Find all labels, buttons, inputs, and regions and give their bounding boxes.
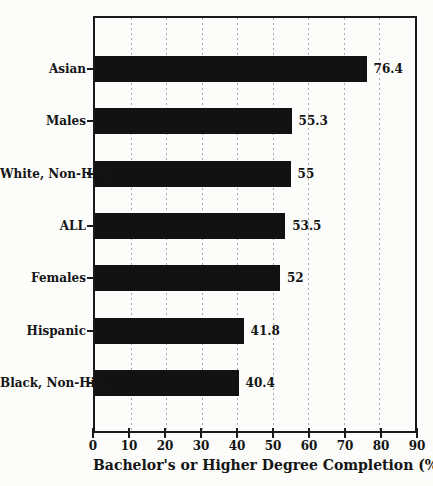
y-axis-tick-0 (87, 68, 93, 70)
x-tick-label-50: 50 (258, 439, 288, 453)
bar-3 (95, 213, 285, 239)
bar-0 (95, 56, 367, 82)
bar-2 (95, 161, 291, 187)
x-tick-label-10: 10 (114, 439, 144, 453)
y-axis-tick-4 (87, 277, 93, 279)
value-label-2: 55 (298, 161, 315, 187)
value-label-4: 52 (287, 265, 304, 291)
category-label-5: Hispanic (0, 318, 86, 344)
category-label-4: Females (0, 265, 86, 291)
value-label-5: 41.8 (251, 318, 280, 344)
x-tick-label-90: 90 (402, 439, 432, 453)
x-tick-label-30: 30 (186, 439, 216, 453)
category-label-3: ALL (0, 213, 86, 239)
y-axis-tick-6 (87, 382, 93, 384)
x-axis-tick-60 (308, 428, 310, 438)
value-label-1: 55.3 (299, 108, 328, 134)
x-axis-tick-80 (380, 428, 382, 438)
value-label-6: 40.4 (246, 370, 275, 396)
x-axis-tick-30 (200, 428, 202, 438)
chart: 76.455.35553.55241.840.4 Bachelor's or H… (0, 0, 433, 486)
category-label-0: Asian (0, 56, 86, 82)
x-tick-label-80: 80 (366, 439, 396, 453)
category-label-2: White, Non-Hisp (0, 161, 86, 187)
x-tick-label-0: 0 (78, 439, 108, 453)
category-label-6: Black, Non-Hisp (0, 370, 86, 396)
x-axis-tick-0 (92, 428, 94, 438)
x-axis-tick-40 (236, 428, 238, 438)
x-axis-tick-20 (164, 428, 166, 438)
x-axis-tick-50 (272, 428, 274, 438)
x-tick-label-40: 40 (222, 439, 252, 453)
x-axis-tick-90 (416, 428, 418, 438)
x-tick-label-20: 20 (150, 439, 180, 453)
value-label-3: 53.5 (292, 213, 321, 239)
bar-5 (95, 318, 244, 344)
bar-6 (95, 370, 239, 396)
bar-4 (95, 265, 280, 291)
y-axis-tick-2 (87, 173, 93, 175)
plot-area: 76.455.35553.55241.840.4 (93, 16, 417, 433)
x-tick-label-70: 70 (330, 439, 360, 453)
y-axis-tick-5 (87, 330, 93, 332)
y-axis-tick-3 (87, 225, 93, 227)
value-label-0: 76.4 (374, 56, 403, 82)
x-axis-title: Bachelor's or Higher Degree Completion (… (93, 457, 417, 473)
y-axis-tick-1 (87, 120, 93, 122)
category-label-1: Males (0, 108, 86, 134)
x-tick-label-60: 60 (294, 439, 324, 453)
bar-1 (95, 108, 292, 134)
x-axis-tick-70 (344, 428, 346, 438)
x-axis-tick-10 (128, 428, 130, 438)
